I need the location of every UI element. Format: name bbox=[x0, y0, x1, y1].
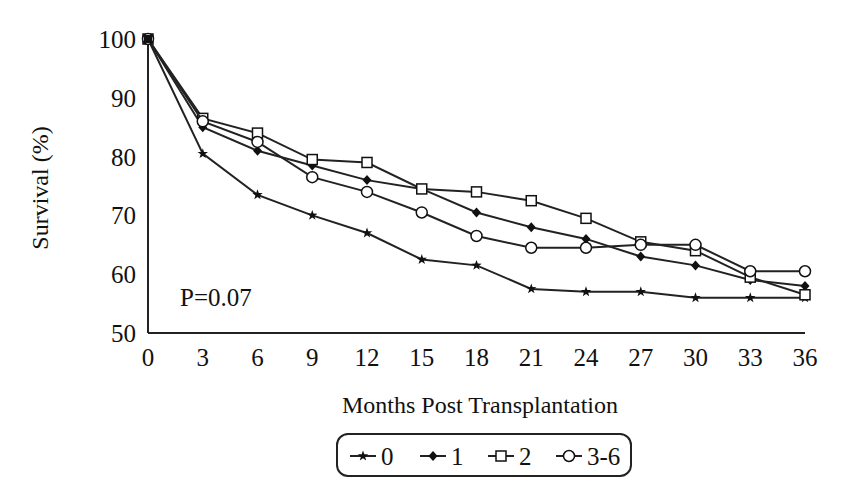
x-tick-label: 0 bbox=[142, 344, 155, 371]
x-tick-label: 12 bbox=[355, 344, 380, 371]
circle-marker-icon bbox=[197, 116, 208, 127]
series-lines bbox=[143, 34, 811, 303]
x-tick-label: 9 bbox=[306, 344, 319, 371]
square-marker-icon bbox=[496, 451, 506, 461]
circle-marker-icon bbox=[690, 239, 701, 250]
legend-label: 2 bbox=[519, 443, 532, 470]
diamond-marker-icon bbox=[527, 222, 536, 232]
x-tick-labels: 0369121518212427303336 bbox=[142, 344, 818, 371]
circle-marker-icon bbox=[471, 230, 482, 241]
series-0 bbox=[143, 34, 810, 303]
square-marker-icon bbox=[417, 184, 427, 194]
x-tick-label: 33 bbox=[738, 344, 763, 371]
legend-item-0: 0 bbox=[350, 443, 394, 470]
diamond-marker-icon bbox=[472, 207, 481, 217]
series-line bbox=[148, 39, 805, 298]
star-marker-icon bbox=[362, 228, 372, 238]
y-tick-label: 80 bbox=[111, 144, 136, 171]
legend-item-2: 2 bbox=[488, 443, 532, 470]
y-tick-label: 90 bbox=[111, 85, 136, 112]
legend-items: 0123-6 bbox=[338, 435, 630, 475]
square-marker-icon bbox=[581, 213, 591, 223]
star-marker-icon bbox=[526, 283, 537, 293]
circle-marker-icon bbox=[362, 186, 373, 197]
diamond-marker-icon bbox=[691, 260, 700, 270]
legend-label: 3-6 bbox=[587, 443, 620, 470]
legend: 0123-6 bbox=[336, 433, 632, 477]
series-3-6 bbox=[143, 34, 811, 277]
y-axis-title: Survival (%) bbox=[27, 126, 53, 249]
x-tick-label: 36 bbox=[793, 344, 818, 371]
x-tick-label: 3 bbox=[197, 344, 210, 371]
square-marker-icon bbox=[307, 155, 317, 165]
series-line bbox=[148, 39, 805, 295]
star-marker-icon bbox=[307, 210, 318, 220]
diamond-marker-icon bbox=[363, 175, 372, 185]
star-marker-icon bbox=[358, 451, 368, 461]
square-marker-icon bbox=[472, 187, 482, 197]
y-tick-label: 70 bbox=[111, 202, 136, 229]
x-axis-title: Months Post Transplantation bbox=[342, 392, 618, 418]
x-tick-label: 27 bbox=[628, 344, 653, 371]
y-tick-label: 50 bbox=[111, 320, 136, 347]
star-marker-icon bbox=[690, 292, 700, 302]
square-marker-icon bbox=[362, 157, 372, 167]
circle-marker-icon bbox=[416, 207, 427, 218]
x-tick-label: 6 bbox=[251, 344, 264, 371]
square-marker-icon bbox=[526, 196, 536, 206]
star-marker-icon bbox=[471, 260, 481, 270]
diamond-marker-icon bbox=[636, 252, 645, 262]
circle-marker-icon bbox=[745, 266, 756, 277]
survival-line-chart: 5060708090100 0369121518212427303336 Sur… bbox=[0, 0, 848, 503]
y-tick-label: 60 bbox=[111, 261, 136, 288]
circle-marker-icon bbox=[307, 172, 318, 183]
circle-marker-icon bbox=[635, 239, 646, 250]
legend-label: 1 bbox=[451, 443, 464, 470]
p-value-annotation: P=0.07 bbox=[180, 284, 252, 311]
y-tick-labels: 5060708090100 bbox=[99, 26, 137, 347]
origin-marker-icon bbox=[144, 35, 152, 43]
x-tick-label: 18 bbox=[464, 344, 489, 371]
square-marker-icon bbox=[800, 290, 810, 300]
circle-marker-icon bbox=[252, 136, 263, 147]
star-marker-icon bbox=[252, 189, 262, 199]
circle-marker-icon bbox=[581, 242, 592, 253]
star-marker-icon bbox=[581, 286, 591, 296]
star-marker-icon bbox=[417, 254, 428, 264]
x-tick-label: 30 bbox=[683, 344, 708, 371]
circle-marker-icon bbox=[564, 451, 575, 462]
circle-marker-icon bbox=[526, 242, 537, 253]
x-tick-label: 21 bbox=[519, 344, 544, 371]
diamond-marker-icon bbox=[429, 451, 438, 461]
circle-marker-icon bbox=[800, 266, 811, 277]
y-tick-label: 100 bbox=[99, 26, 137, 53]
series-line bbox=[148, 39, 805, 286]
legend-item-3-6: 3-6 bbox=[556, 443, 620, 470]
legend-label: 0 bbox=[381, 443, 394, 470]
x-tick-label: 24 bbox=[574, 344, 600, 371]
legend-item-1: 1 bbox=[420, 443, 464, 470]
x-tick-label: 15 bbox=[409, 344, 434, 371]
